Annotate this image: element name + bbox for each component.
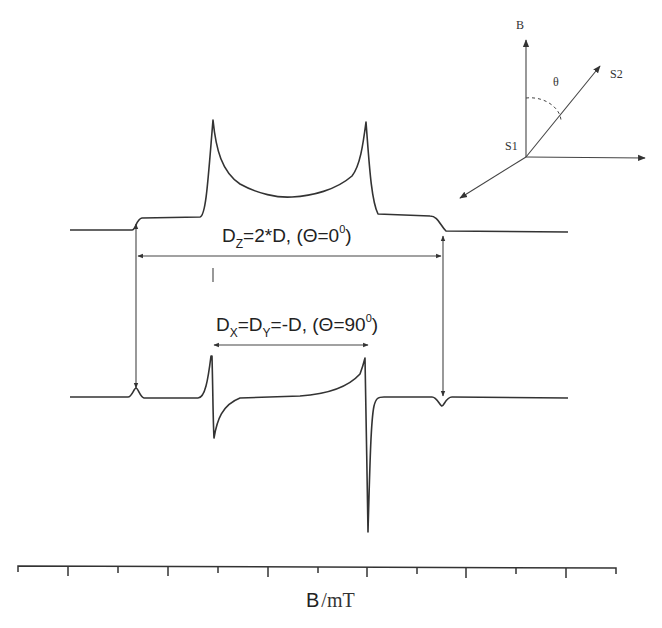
dz-annotation: DZ=2*D, (Θ=00) — [222, 223, 352, 251]
top-spectrum-trace — [70, 120, 568, 232]
s1-label: S1 — [505, 139, 518, 153]
theta-label: θ — [553, 75, 559, 89]
axis-label: B/mT — [306, 589, 355, 611]
s2-label: S2 — [610, 67, 623, 81]
x-axis-vector — [526, 157, 645, 158]
s2-vector — [526, 66, 600, 157]
spin-vector-diagram: B θ S1 S2 — [460, 18, 645, 198]
field-axis — [18, 566, 616, 578]
bottom-spectrum-trace — [70, 356, 568, 532]
epr-spectrum-figure: DZ=2*D, (Θ=00) DX=DY=-D, (Θ=900) B/mT B … — [0, 0, 662, 628]
dxdy-annotation: DX=DY=-D, (Θ=900) — [216, 312, 378, 340]
y-axis-vector — [460, 157, 526, 198]
b-label: B — [516, 18, 524, 32]
theta-arc — [526, 98, 561, 120]
